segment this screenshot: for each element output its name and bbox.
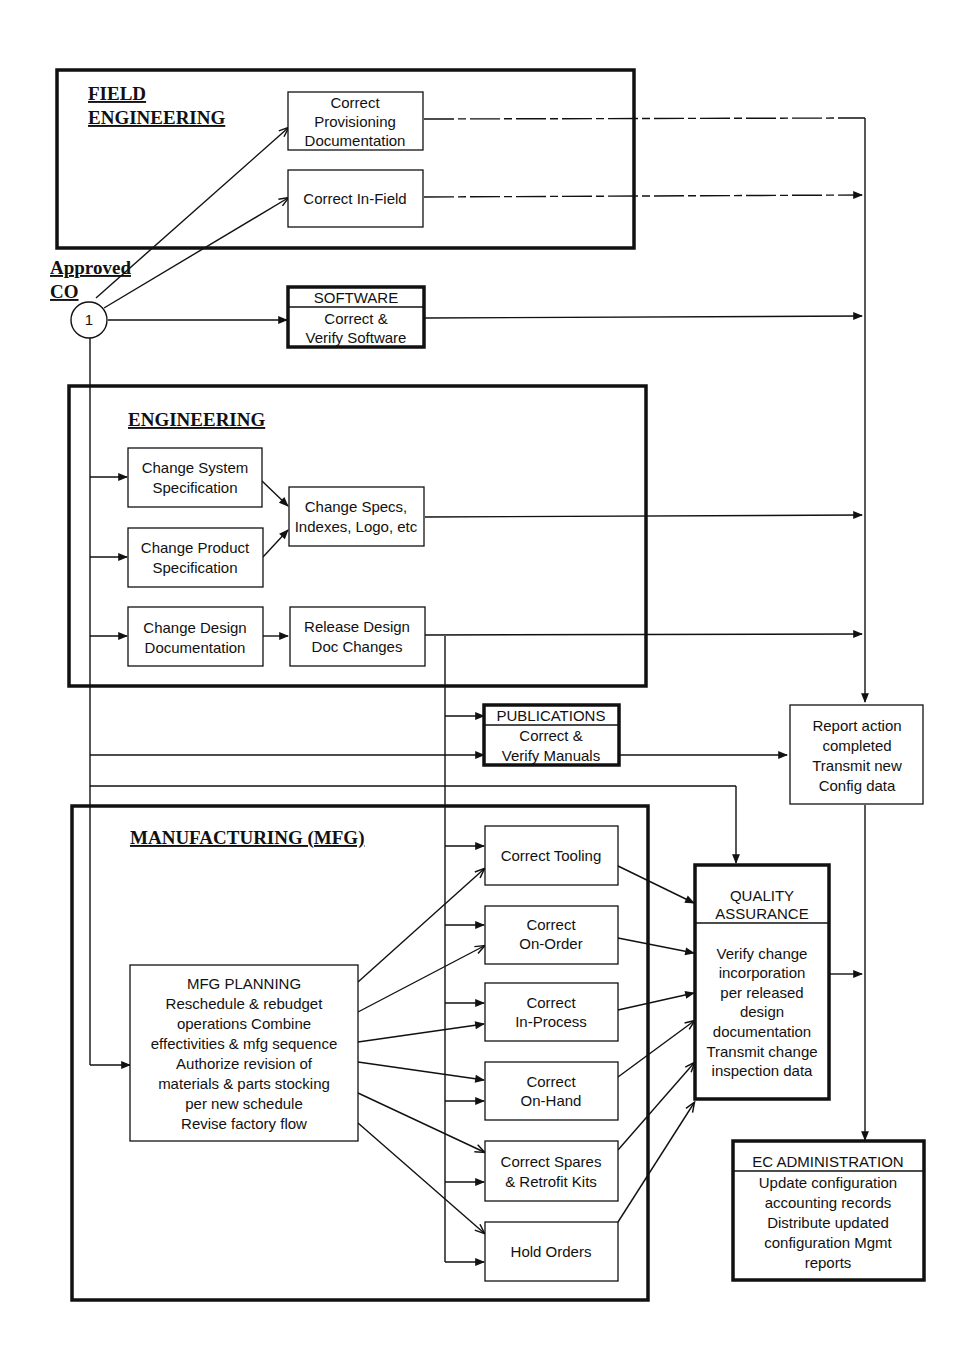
box-line: Change System bbox=[142, 459, 249, 476]
box-line: In-Process bbox=[515, 1013, 587, 1030]
box-line: Hold Orders bbox=[511, 1243, 592, 1260]
box-line: MFG PLANNING bbox=[187, 975, 301, 992]
approved-label: Approved bbox=[50, 257, 131, 278]
box-line: per new schedule bbox=[185, 1095, 303, 1112]
box-line: & Retrofit Kits bbox=[505, 1173, 597, 1190]
box-line: Distribute updated bbox=[767, 1214, 889, 1231]
box-line: Config data bbox=[819, 777, 896, 794]
box-line: completed bbox=[822, 737, 891, 754]
box-line: Documentation bbox=[145, 639, 246, 656]
approved-co-node[interactable]: Approved CO 1 bbox=[50, 257, 131, 338]
box-line: inspection data bbox=[712, 1062, 814, 1079]
box-line: Correct & bbox=[519, 727, 582, 744]
box-line: Verify Manuals bbox=[502, 747, 600, 764]
box-line: Reschedule & rebudget bbox=[166, 995, 324, 1012]
box-line: Documentation bbox=[305, 132, 406, 149]
box-line: Change Design bbox=[143, 619, 246, 636]
correct-on-order-box[interactable]: Correct On-Order bbox=[485, 906, 618, 964]
box-line: Revise factory flow bbox=[181, 1115, 307, 1132]
box-line: Correct bbox=[526, 994, 576, 1011]
box-line: Verify Software bbox=[306, 329, 407, 346]
flowchart-canvas: FIELD ENGINEERING Correct Provisioning D… bbox=[0, 0, 978, 1372]
box-line: incorporation bbox=[719, 964, 806, 981]
ec-administration-box[interactable]: EC ADMINISTRATION Update configuration a… bbox=[733, 1141, 924, 1280]
box-line: Indexes, Logo, etc bbox=[295, 518, 418, 535]
change-system-spec-box[interactable]: Change System Specification bbox=[128, 448, 262, 507]
box-line: Correct In-Field bbox=[303, 190, 406, 207]
box-line: Report action bbox=[812, 717, 901, 734]
box-line: documentation bbox=[713, 1023, 811, 1040]
node-number: 1 bbox=[85, 311, 93, 328]
box-line: Specification bbox=[152, 479, 237, 496]
correct-in-field-box[interactable]: Correct In-Field bbox=[288, 170, 423, 227]
field-engineering-section: FIELD ENGINEERING Correct Provisioning D… bbox=[57, 70, 634, 248]
manufacturing-title: MANUFACTURING (MFG) bbox=[130, 827, 364, 849]
correct-tooling-box[interactable]: Correct Tooling bbox=[485, 826, 618, 885]
hold-orders-box[interactable]: Hold Orders bbox=[485, 1222, 618, 1281]
box-line: Update configuration bbox=[759, 1174, 897, 1191]
box-line: operations Combine bbox=[177, 1015, 311, 1032]
box-line: Correct & bbox=[324, 310, 387, 327]
box-line: Correct bbox=[330, 94, 380, 111]
change-product-spec-box[interactable]: Change Product Specification bbox=[128, 528, 263, 587]
box-line: Change Product bbox=[141, 539, 250, 556]
correct-provisioning-box[interactable]: Correct Provisioning Documentation bbox=[288, 92, 423, 150]
box-line: Correct bbox=[526, 1073, 576, 1090]
field-engineering-title-1: FIELD bbox=[88, 83, 146, 104]
quality-assurance-box[interactable]: QUALITY ASSURANCE Verify change incorpor… bbox=[695, 865, 829, 1099]
box-line: Transmit new bbox=[812, 757, 902, 774]
release-design-box[interactable]: Release Design Doc Changes bbox=[290, 607, 425, 666]
box-line: Verify change bbox=[717, 945, 808, 962]
correct-spares-box[interactable]: Correct Spares & Retrofit Kits bbox=[485, 1141, 618, 1201]
box-line: configuration Mgmt bbox=[764, 1234, 892, 1251]
correct-in-process-box[interactable]: Correct In-Process bbox=[485, 983, 618, 1041]
box-line: Provisioning bbox=[314, 113, 396, 130]
manufacturing-section: MANUFACTURING (MFG) MFG PLANNING Resched… bbox=[72, 806, 648, 1300]
box-line: per released bbox=[720, 984, 803, 1001]
publications-header: PUBLICATIONS bbox=[497, 707, 606, 724]
box-line: Change Specs, bbox=[305, 498, 408, 515]
box-line: On-Order bbox=[519, 935, 582, 952]
ec-admin-header: EC ADMINISTRATION bbox=[752, 1153, 903, 1170]
box-line: effectivities & mfg sequence bbox=[151, 1035, 338, 1052]
publications-box[interactable]: PUBLICATIONS Correct & Verify Manuals bbox=[484, 705, 619, 765]
box-line: Doc Changes bbox=[312, 638, 403, 655]
box-line: accounting records bbox=[765, 1194, 892, 1211]
box-line: Correct Spares bbox=[501, 1153, 602, 1170]
qa-header: QUALITY bbox=[730, 887, 794, 904]
engineering-title: ENGINEERING bbox=[128, 409, 265, 430]
box-line: Specification bbox=[152, 559, 237, 576]
box-line: reports bbox=[805, 1254, 852, 1271]
field-engineering-title-2: ENGINEERING bbox=[88, 107, 225, 128]
mfg-planning-box[interactable]: MFG PLANNING Reschedule & rebudget opera… bbox=[130, 965, 358, 1141]
engineering-section: ENGINEERING Change System Specification … bbox=[69, 386, 646, 686]
change-specs-indexes-box[interactable]: Change Specs, Indexes, Logo, etc bbox=[289, 487, 424, 546]
box-line: Release Design bbox=[304, 618, 410, 635]
box-line: Correct Tooling bbox=[501, 847, 602, 864]
correct-on-hand-box[interactable]: Correct On-Hand bbox=[485, 1062, 618, 1120]
box-line: On-Hand bbox=[521, 1092, 582, 1109]
report-action-box[interactable]: Report action completed Transmit new Con… bbox=[790, 705, 923, 804]
box-line: Correct bbox=[526, 916, 576, 933]
co-label: CO bbox=[50, 281, 79, 302]
box-line: Authorize revision of bbox=[176, 1055, 313, 1072]
box-line: design bbox=[740, 1003, 784, 1020]
box-line: Transmit change bbox=[706, 1043, 817, 1060]
software-header: SOFTWARE bbox=[314, 289, 398, 306]
software-box[interactable]: SOFTWARE Correct & Verify Software bbox=[288, 287, 424, 347]
change-design-doc-box[interactable]: Change Design Documentation bbox=[128, 607, 263, 666]
qa-header: ASSURANCE bbox=[715, 905, 808, 922]
box-line: materials & parts stocking bbox=[158, 1075, 330, 1092]
